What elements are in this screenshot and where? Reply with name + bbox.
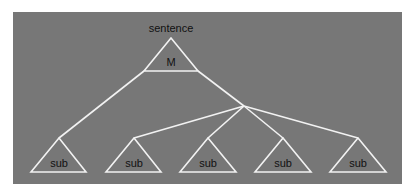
tree-diagram: sentence M sub sub sub sub sub xyxy=(0,0,413,196)
sub-node-label-3: sub xyxy=(199,158,217,169)
root-node-label: M xyxy=(166,57,175,68)
edge-root-to-sub-1 xyxy=(59,71,144,138)
sub-node-label-1: sub xyxy=(50,158,68,169)
root-title-label: sentence xyxy=(149,23,194,34)
sub-node-label-5: sub xyxy=(349,158,367,169)
sub-node-label-4: sub xyxy=(274,158,292,169)
edge-root-to-branch xyxy=(198,71,244,106)
edge-branch-to-sub-2 xyxy=(134,106,244,138)
sub-node-label-2: sub xyxy=(125,158,143,169)
edge-branch-to-sub-5 xyxy=(244,106,358,138)
